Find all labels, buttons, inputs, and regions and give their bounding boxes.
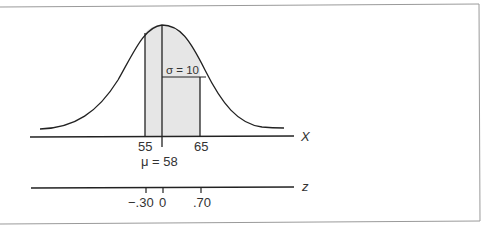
z-tick-label: −.30 [128,195,154,210]
x-tick-label: 55 [138,139,152,154]
shaded-area [145,25,200,137]
x-tick-label: 65 [194,139,208,154]
x-axis-label: X [300,129,311,144]
x-axis [30,136,294,137]
z-tick-label: 0 [159,195,166,210]
mean-label: μ = 58 [141,154,178,169]
z-axis-label: z [301,179,309,194]
z-tick-label: .70 [193,195,211,210]
figure-frame [0,4,480,224]
sigma-label: σ = 10 [166,64,199,76]
z-axis [31,187,294,188]
normal-distribution-diagram: σ = 10 55 65 μ = 58 X z −.30 0 .70 [0,0,501,234]
